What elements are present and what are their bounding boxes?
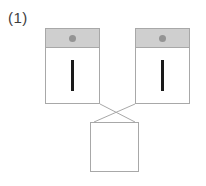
bottom-unit-box[interactable] xyxy=(90,122,139,172)
vertical-bar-icon xyxy=(161,60,164,91)
right-unit-box[interactable] xyxy=(135,28,190,104)
dot-icon xyxy=(159,35,166,42)
vertical-bar-icon xyxy=(71,60,74,91)
left-unit-header xyxy=(46,29,99,48)
right-unit-header xyxy=(136,29,189,48)
left-unit-box[interactable] xyxy=(45,28,100,104)
right-unit-body xyxy=(136,48,189,103)
left-unit-body xyxy=(46,48,99,103)
figure-container: (1) xyxy=(0,0,206,186)
dot-icon xyxy=(69,35,76,42)
